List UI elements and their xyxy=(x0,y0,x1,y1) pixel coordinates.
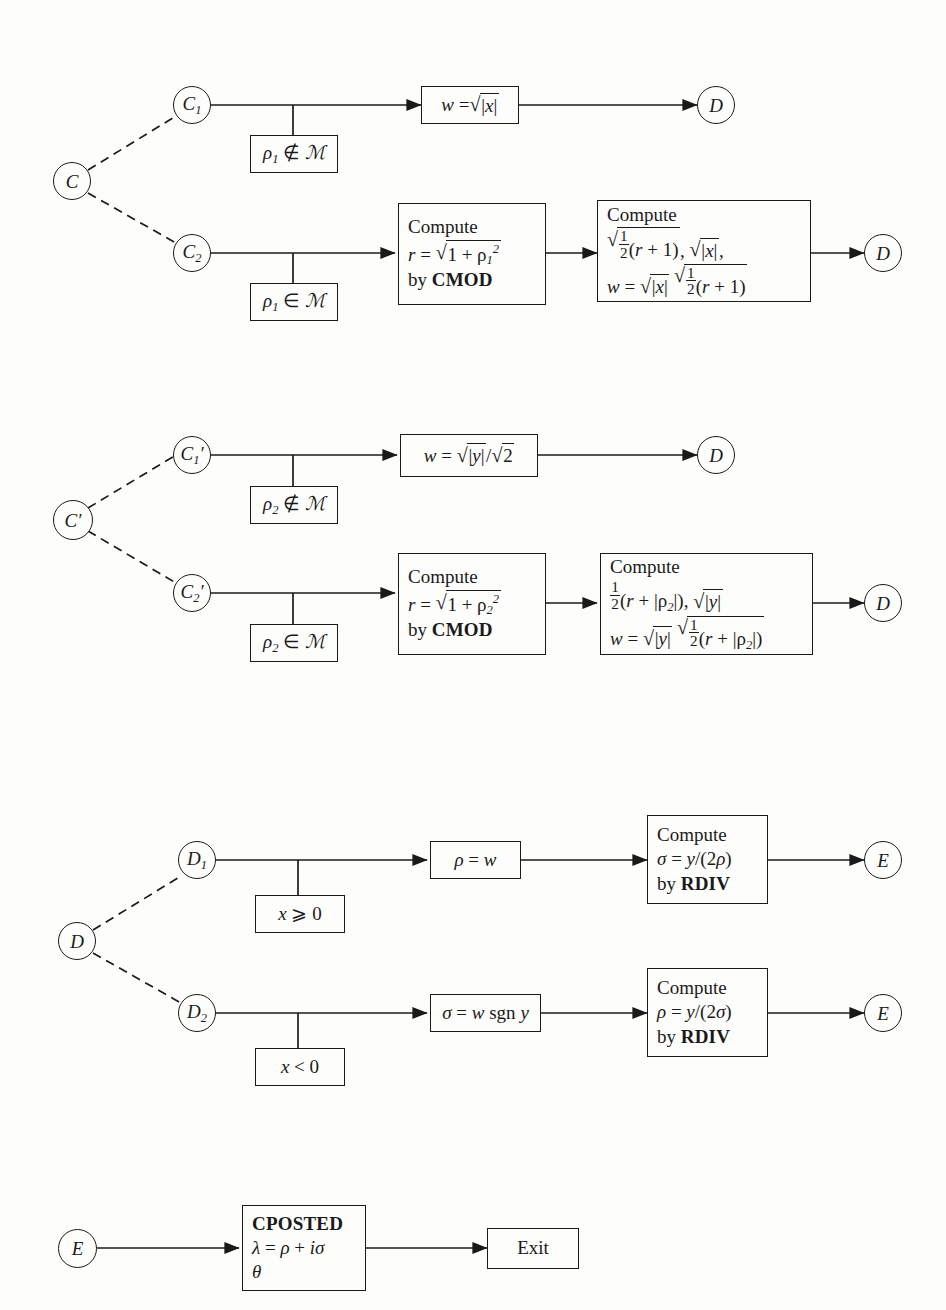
script-m-symbol: ℳ xyxy=(305,142,325,163)
compute-label: Compute xyxy=(408,215,478,239)
flowchart-canvas: C C1 C2 ρ1 ∉ ℳ w =|x| D ρ1 ∈ ℳ Compute r… xyxy=(0,0,946,1310)
lt-symbol: < xyxy=(294,1056,305,1077)
connector-lines xyxy=(0,0,946,1310)
node-c1-subscript: 1 xyxy=(195,102,201,116)
in-symbol: ∈ xyxy=(283,290,300,311)
node-d-label: D xyxy=(709,96,723,115)
box-cposted: CPOSTED λ = ρ + iσ θ xyxy=(242,1205,366,1291)
box-compute-w-sqrt-half-1: Compute 12(r + 1), |x|, w = |x| 12(r + 1… xyxy=(597,200,811,302)
prime-symbol: ′ xyxy=(77,510,81,531)
node-d-exit-c1-prime[interactable]: D xyxy=(697,436,735,474)
node-c-label: C xyxy=(66,172,79,191)
condition-x-ge-0: x ⩾ 0 xyxy=(255,895,345,933)
box-exit: Exit xyxy=(487,1228,579,1269)
node-d1[interactable]: D1 xyxy=(178,841,216,879)
node-e-exit-d1[interactable]: E xyxy=(864,841,902,879)
box-compute-r-cmod-2: Compute r = 1 + ρ22 by CMOD xyxy=(398,553,546,655)
box-compute-w-sqrt-half-2: Compute 12(r + |ρ2|), |y| w = |y| 12(r +… xyxy=(600,553,813,655)
node-c-prime[interactable]: C′ xyxy=(53,500,93,540)
node-c2-prime[interactable]: C2′ xyxy=(173,574,211,612)
not-in-symbol: ∉ xyxy=(283,142,300,163)
node-d[interactable]: D xyxy=(58,922,96,960)
box-w-sqrt-abs-y-over-sqrt2: w = |y|/2 xyxy=(400,434,538,477)
box-w-sqrt-abs-x: w =|x| xyxy=(421,86,519,124)
node-c[interactable]: C xyxy=(53,162,91,200)
node-c1-prime[interactable]: C1′ xyxy=(173,436,211,474)
box-sigma-equals-w-sgn-y: σ = w sgn y xyxy=(430,994,541,1032)
node-d-exit-c2-prime[interactable]: D xyxy=(864,584,902,622)
box-compute-sigma-rdiv: Compute σ = y/(2ρ) by RDIV xyxy=(647,815,768,904)
box-compute-r-cmod-1: Compute r = 1 + ρ12 by CMOD xyxy=(398,203,546,305)
node-e-label: E xyxy=(877,851,889,870)
node-d-exit-c2[interactable]: D xyxy=(864,234,902,272)
box-rho-equals-w: ρ = w xyxy=(430,841,521,879)
condition-rho2-in-m: ρ2 ∈ ℳ xyxy=(250,624,338,662)
condition-x-lt-0: x < 0 xyxy=(255,1048,345,1086)
cmod-label: CMOD xyxy=(432,269,493,290)
exit-label: Exit xyxy=(517,1236,549,1260)
node-e-exit-d2[interactable]: E xyxy=(864,994,902,1032)
node-c-prime-label: C xyxy=(65,510,78,531)
rho-subscript-1: 1 xyxy=(272,152,278,166)
ge-symbol: ⩾ xyxy=(291,903,307,924)
node-c1[interactable]: C1 xyxy=(173,86,211,124)
condition-rho2-not-in-m: ρ2 ∉ ℳ xyxy=(250,486,338,524)
node-c2-subscript: 2 xyxy=(195,250,201,264)
box-compute-rho-rdiv: Compute ρ = y/(2σ) by RDIV xyxy=(647,968,768,1057)
cposted-label: CPOSTED xyxy=(252,1212,343,1236)
node-c2[interactable]: C2 xyxy=(173,234,211,272)
node-e[interactable]: E xyxy=(58,1229,97,1268)
condition-rho1-in-m: ρ1 ∈ ℳ xyxy=(250,283,338,321)
node-d-exit-c1[interactable]: D xyxy=(697,86,735,124)
node-c2-label: C xyxy=(183,241,196,262)
sgn-label: sgn xyxy=(489,1002,515,1023)
theta-symbol: θ xyxy=(252,1261,261,1282)
node-c1-label: C xyxy=(183,93,196,114)
node-d2[interactable]: D2 xyxy=(178,994,216,1032)
condition-rho1-not-in-m: ρ1 ∉ ℳ xyxy=(250,135,338,173)
w-var: w xyxy=(441,95,454,116)
rdiv-label: RDIV xyxy=(681,873,730,894)
